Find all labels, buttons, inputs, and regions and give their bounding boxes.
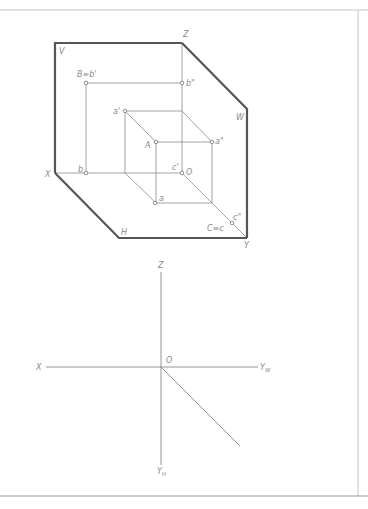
lower-labels: Z X O YW YH — [35, 261, 271, 477]
label-a-double-prime: a" — [215, 137, 224, 146]
drawing-canvas: Z V B≡b' b" a' W A a" c' O X b a C≡c c" … — [0, 0, 368, 509]
label-A: A — [144, 141, 150, 150]
label-Y: Y — [244, 241, 250, 250]
point-b-double-prime — [180, 81, 184, 85]
upper-labels: Z V B≡b' b" a' W A a" c' O X b a C≡c c" … — [44, 30, 250, 250]
label-W: W — [236, 113, 245, 122]
label-lower-Yw: YW — [260, 363, 271, 373]
z-to-a-double-prime-line — [182, 111, 212, 142]
label-Z: Z — [182, 30, 189, 39]
label-lower-Yh: YH — [157, 467, 166, 477]
point-A — [154, 140, 158, 144]
label-lower-Z: Z — [157, 261, 164, 270]
point-b — [84, 171, 88, 175]
label-b-double-prime: b" — [186, 79, 195, 88]
point-O-c-prime — [180, 171, 184, 175]
label-X: X — [44, 170, 51, 179]
label-a-prime: a' — [113, 107, 120, 116]
diagonal-45-line — [161, 367, 240, 446]
label-c-double-prime: c" — [233, 213, 241, 222]
label-V: V — [59, 47, 65, 56]
x-to-a-line — [125, 173, 156, 203]
point-B — [84, 81, 88, 85]
label-lower-X: X — [35, 363, 42, 372]
projection-axes-figure: Z X O YW YH — [35, 261, 271, 477]
label-lower-O: O — [166, 356, 172, 365]
label-c-prime: c' — [172, 163, 179, 172]
point-a-prime — [123, 109, 127, 113]
label-C-c: C≡c — [207, 224, 224, 233]
a-prime-to-A-line — [125, 111, 156, 142]
label-H: H — [121, 228, 127, 237]
label-b: b — [78, 165, 83, 174]
label-a: a — [159, 194, 164, 203]
point-a-double-prime — [210, 140, 214, 144]
label-O: O — [186, 168, 192, 177]
label-B-b-prime: B≡b' — [77, 70, 96, 79]
projection-system-figure: Z V B≡b' b" a' W A a" c' O X b a C≡c c" … — [44, 30, 250, 250]
point-a — [153, 201, 157, 205]
